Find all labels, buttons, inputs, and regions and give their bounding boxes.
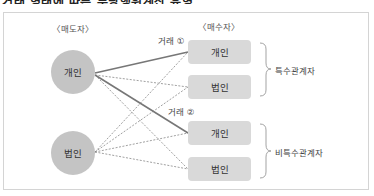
buyer-related-individual-box: 개인 <box>188 40 251 64</box>
link-seller-corporation-to-unrelated-individual <box>95 133 188 152</box>
seller-individual-circle: 개인 <box>51 50 95 94</box>
seller-individual-label: 개인 <box>64 65 82 79</box>
buyer-unrelated-individual-box: 개인 <box>188 121 251 145</box>
buyer-unrelated-corporation-box: 법인 <box>188 157 251 181</box>
related-party-brace <box>260 43 271 96</box>
seller-corporation-label: 법인 <box>64 146 82 160</box>
trade-1-label: 거래 ① <box>158 34 184 46</box>
seller-header: 〈매도자〉 <box>52 22 94 34</box>
unrelated-party-label: 비특수관계자 <box>275 146 323 158</box>
related-party-label: 특수관계자 <box>275 64 315 76</box>
seller-corporation-circle: 법인 <box>51 131 95 175</box>
buyer-header: 〈매수자〉 <box>198 20 240 32</box>
buyer-unrelated-individual-label: 개인 <box>211 126 229 140</box>
trade-1-line <box>95 52 188 73</box>
buyer-related-individual-label: 개인 <box>211 45 229 59</box>
trade-2-line <box>95 75 188 133</box>
trade-2-label: 거래 ② <box>168 105 194 117</box>
link-seller-corporation-to-related-individual <box>95 52 188 152</box>
link-seller-individual-to-related-corporation <box>95 75 188 87</box>
buyer-related-corporation-box: 법인 <box>188 75 251 99</box>
buyer-unrelated-corporation-label: 법인 <box>211 162 229 176</box>
unrelated-party-brace <box>260 124 271 178</box>
link-seller-corporation-to-related-corporation <box>95 87 188 152</box>
buyer-related-corporation-label: 법인 <box>211 80 229 94</box>
